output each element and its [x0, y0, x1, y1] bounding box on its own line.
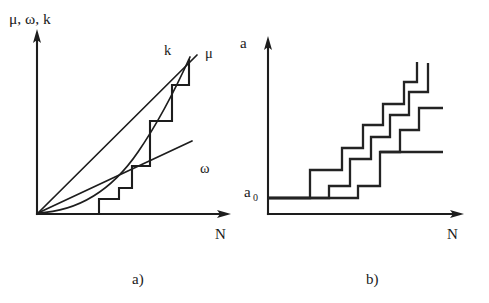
panel-a-label-k: k	[164, 42, 172, 58]
curve-k	[38, 55, 197, 213]
two-panel-diagram: μ, ω, k k μ ω N a) a	[0, 0, 489, 303]
panel-a-staircase	[99, 59, 189, 214]
panel-b-baseline-label-subscript: 0	[253, 192, 258, 203]
figure-container: μ, ω, k k μ ω N a) a	[0, 0, 489, 303]
panel-b: a a 0 N b)	[240, 35, 464, 288]
panel-a-label-omega: ω	[200, 160, 210, 176]
panel-a-label-mu: μ	[205, 45, 213, 61]
curve-omega	[38, 141, 192, 213]
panel-a-y-axis-label: μ, ω, k	[9, 10, 51, 27]
panel-a-caption: a)	[132, 271, 144, 288]
panel-a-x-axis-label: N	[215, 226, 226, 242]
panel-b-x-axis-label: N	[447, 226, 458, 242]
panel-b-baseline-label-base: a	[244, 184, 251, 200]
panel-b-baseline-label: a 0	[244, 184, 258, 203]
panel-a: μ, ω, k k μ ω N a)	[9, 10, 231, 288]
panel-b-staircase-1	[268, 62, 417, 198]
panel-b-y-axis-label: a	[240, 35, 247, 51]
panel-b-caption: b)	[366, 271, 379, 288]
